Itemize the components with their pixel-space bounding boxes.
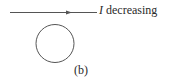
current-description: decreasing [103, 3, 157, 17]
current-label: I decreasing [99, 3, 157, 18]
conducting-loop [36, 25, 74, 63]
panel-label: (b) [74, 63, 88, 78]
current-arrow-icon [66, 11, 72, 15]
